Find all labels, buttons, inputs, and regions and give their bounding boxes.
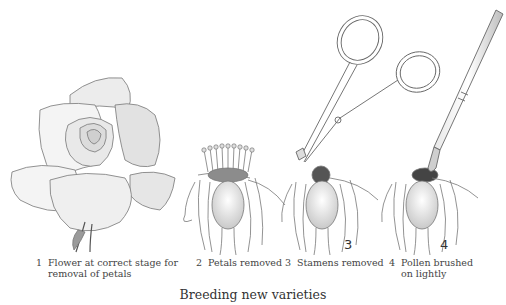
stamens-removed-illustration xyxy=(282,166,378,255)
caption-step-1-line2: removal of petals xyxy=(36,268,178,279)
caption-step-1-line1: Flower at correct stage for xyxy=(48,257,178,268)
step-3-inline-label: 3 xyxy=(344,237,352,252)
flower-petals-removed-illustration xyxy=(184,144,285,255)
caption-step-4-number: 4 xyxy=(389,257,401,268)
caption-step-4-line1: Pollen brushed xyxy=(401,257,473,268)
scissors-illustration xyxy=(296,7,446,162)
rose-illustration xyxy=(11,78,175,252)
caption-step-4-line2: on lightly xyxy=(389,268,473,279)
caption-step-2-line1: Petals removed xyxy=(208,257,282,268)
caption-step-3: 3Stamens removed xyxy=(285,257,384,268)
figure-title: Breeding new varieties xyxy=(0,287,506,302)
step-4-inline-label: 4 xyxy=(440,237,448,252)
pollen-brushed-illustration xyxy=(382,168,478,255)
caption-step-1: 1Flower at correct stage for removal of … xyxy=(36,257,178,279)
paintbrush-illustration xyxy=(428,10,503,172)
caption-step-4: 4Pollen brushed on lightly xyxy=(389,257,473,279)
caption-step-2: 2Petals removed xyxy=(196,257,282,268)
caption-step-3-number: 3 xyxy=(285,257,297,268)
caption-step-2-number: 2 xyxy=(196,257,208,268)
caption-step-1-number: 1 xyxy=(36,257,48,268)
caption-step-3-line1: Stamens removed xyxy=(297,257,384,268)
